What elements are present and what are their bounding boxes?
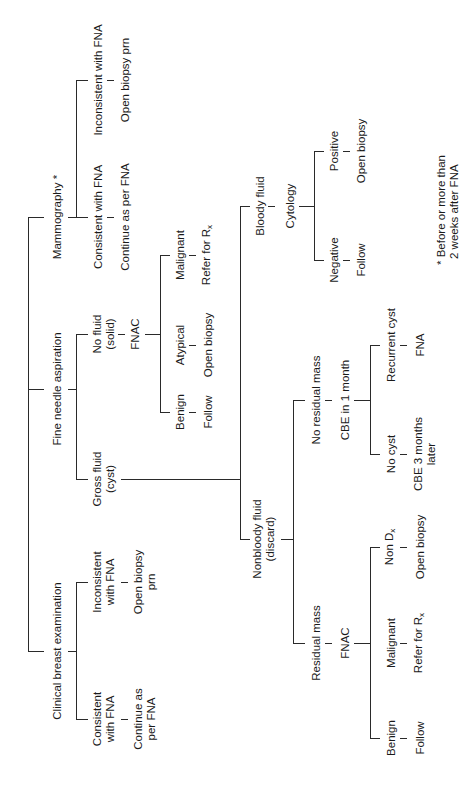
node-solid-open-biopsy: Open biopsy	[202, 313, 215, 378]
connector	[76, 582, 77, 720]
node-solid-follow: Follow	[202, 395, 215, 428]
connector	[121, 719, 128, 720]
node-no-fluid: No fluid (solid)	[91, 315, 117, 354]
node-cyto-open-biopsy: Open biopsy	[355, 119, 368, 184]
node-res-follow: Follow	[414, 721, 427, 754]
node-cbe-inconsistent: Inconsistent with FNA	[91, 551, 117, 612]
connector	[76, 80, 88, 81]
root-connector	[28, 217, 29, 652]
connector	[370, 345, 371, 455]
connector	[400, 643, 407, 644]
node-clinical-breast-examination: Clinical breast examination	[51, 582, 64, 719]
connector	[76, 334, 77, 480]
connector	[107, 80, 114, 81]
node-cbe-1-month: CBE in 1 month	[339, 360, 352, 441]
connector	[240, 206, 250, 207]
connector	[370, 547, 371, 739]
node-solid-refer: Refer for Rx	[200, 225, 216, 285]
node-mammography: Mammography *	[51, 175, 64, 259]
node-nonbloody-fluid: Nonbloody fluid (discard)	[251, 499, 277, 578]
node-mammo-continue: Continue as per FNA	[119, 163, 132, 270]
connector	[325, 643, 332, 644]
connector	[68, 217, 76, 218]
node-cbe-open-biopsy: Open biopsy prn	[132, 550, 158, 615]
node-recurrent-fna: FNA	[414, 334, 427, 357]
connector	[293, 400, 305, 401]
connector	[400, 547, 407, 548]
node-mammo-consistent: Consistent with FNA	[92, 165, 105, 269]
connector	[314, 151, 315, 261]
connector	[160, 412, 170, 413]
connector	[293, 643, 305, 644]
connector	[354, 400, 370, 401]
connector	[400, 454, 407, 455]
connector	[76, 334, 88, 335]
connector	[354, 643, 370, 644]
connector	[28, 389, 44, 390]
node-res-malignant: Malignant	[385, 618, 398, 668]
connector	[28, 217, 44, 218]
node-cbe-continue: Continue as per FNA	[132, 688, 158, 749]
node-recurrent-cyst: Recurrent cyst	[385, 308, 398, 382]
connector	[370, 738, 380, 739]
node-mammo-open-biopsy: Open biopsy prn	[119, 38, 132, 122]
node-bloody-fluid: Bloody fluid	[254, 176, 267, 235]
node-no-cyst: No cyst	[385, 435, 398, 473]
node-residual-mass: Residual mass	[310, 605, 323, 680]
connector	[28, 651, 44, 652]
node-cyto-follow: Follow	[355, 243, 368, 276]
connector	[76, 582, 88, 583]
connector	[281, 539, 293, 540]
connector	[268, 206, 275, 207]
connector	[107, 217, 114, 218]
connector	[400, 738, 407, 739]
node-res-open-biopsy: Open biopsy	[414, 515, 427, 580]
node-res-non-dx: Non Dx	[383, 529, 399, 566]
connector	[370, 454, 380, 455]
connector	[68, 389, 76, 390]
node-res-refer: Refer for Rx	[412, 613, 428, 673]
connector	[189, 412, 196, 413]
connector	[76, 479, 88, 480]
connector	[76, 719, 88, 720]
connector	[76, 80, 77, 218]
node-mammo-inconsistent: Inconsistent with FNA	[92, 24, 105, 135]
connector	[68, 651, 76, 652]
node-solid-malignant: Malignant	[174, 230, 187, 280]
connector	[299, 206, 315, 207]
connector	[189, 255, 196, 256]
connector	[76, 217, 88, 218]
connector	[118, 334, 125, 335]
connector	[121, 479, 241, 480]
connector	[293, 400, 294, 644]
node-no-residual-mass: No residual mass	[310, 356, 323, 445]
connector	[240, 539, 250, 540]
node-fine-needle-aspiration: Fine needle aspiration	[51, 332, 64, 445]
node-fnac-residual: FNAC	[339, 627, 352, 658]
footnote: * Before or more than 2 weeks after FNA	[435, 155, 461, 265]
connector	[160, 255, 170, 256]
node-cyto-positive: Positive	[328, 131, 341, 171]
node-res-benign: Benign	[385, 720, 398, 756]
connector	[314, 260, 324, 261]
connector	[189, 345, 196, 346]
connector	[160, 255, 161, 413]
node-cbe-consistent: Consistent with FNA	[91, 692, 117, 746]
connector	[370, 345, 380, 346]
node-cbe-3-months: CBE 3 months later	[412, 417, 438, 491]
connector	[314, 151, 324, 152]
connector	[145, 334, 161, 335]
connector	[400, 345, 407, 346]
connector	[325, 400, 332, 401]
node-cyto-negative: Negative	[328, 237, 341, 282]
connector	[343, 151, 350, 152]
node-gross-fluid: Gross fluid (cyst)	[91, 452, 117, 507]
connector	[240, 206, 241, 540]
node-solid-atypical: Atypical	[174, 325, 187, 365]
connector	[343, 260, 350, 261]
node-solid-benign: Benign	[174, 394, 187, 430]
node-fnac-solid: FNAC	[129, 318, 142, 349]
connector	[370, 547, 380, 548]
node-cytology: Cytology	[284, 184, 297, 229]
connector	[121, 582, 128, 583]
